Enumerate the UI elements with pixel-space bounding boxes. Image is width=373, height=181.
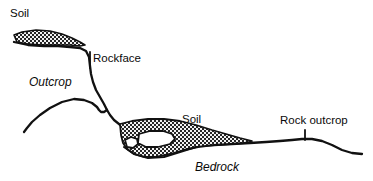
label-bedrock: Bedrock xyxy=(195,160,240,174)
label-soil-lower: Soil xyxy=(182,113,201,125)
label-outcrop: Outcrop xyxy=(29,75,72,89)
label-rockface: Rockface xyxy=(93,52,141,64)
label-soil-upper: Soil xyxy=(10,7,29,19)
label-rock-outcrop: Rock outcrop xyxy=(280,114,348,126)
figure-background xyxy=(0,0,373,181)
soil-lens-void-small xyxy=(125,137,138,148)
soil-lens-void-large xyxy=(138,131,175,147)
geological-cross-section-figure: Soil Rockface Outcrop Soil Bedrock Rock … xyxy=(0,0,373,181)
